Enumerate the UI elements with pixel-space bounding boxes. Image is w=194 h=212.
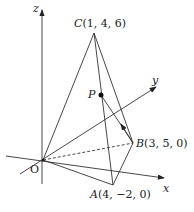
edge-BC — [94, 33, 133, 143]
point-A-name: A — [90, 188, 98, 201]
point-C-label: C(1, 4, 6) — [74, 18, 126, 29]
point-O — [42, 159, 44, 161]
point-B-coords: (3, 5, 0) — [144, 137, 188, 150]
edge-AB — [113, 143, 133, 185]
origin-label: O — [30, 164, 39, 175]
edge-OB-dashed — [43, 143, 133, 160]
point-B-label: B(3, 5, 0) — [136, 138, 188, 149]
point-P-label: P — [88, 89, 95, 100]
y-axis-label: y — [152, 75, 158, 86]
pyramid-diagram: z y x O C(1, 4, 6) B(3, 5, 0) A(4, −2, 0… — [0, 0, 194, 212]
point-B-name: B — [136, 137, 144, 150]
point-A-coords: (4, −2, 0) — [98, 188, 151, 201]
edge-OC — [43, 33, 94, 160]
z-axis-label: z — [33, 3, 39, 14]
edge-OA — [43, 160, 113, 185]
x-axis-label: x — [163, 183, 169, 194]
point-A-label: A(4, −2, 0) — [90, 189, 151, 200]
diagram-canvas — [0, 0, 194, 212]
point-C-coords: (1, 4, 6) — [82, 17, 126, 30]
point-P — [99, 93, 104, 98]
